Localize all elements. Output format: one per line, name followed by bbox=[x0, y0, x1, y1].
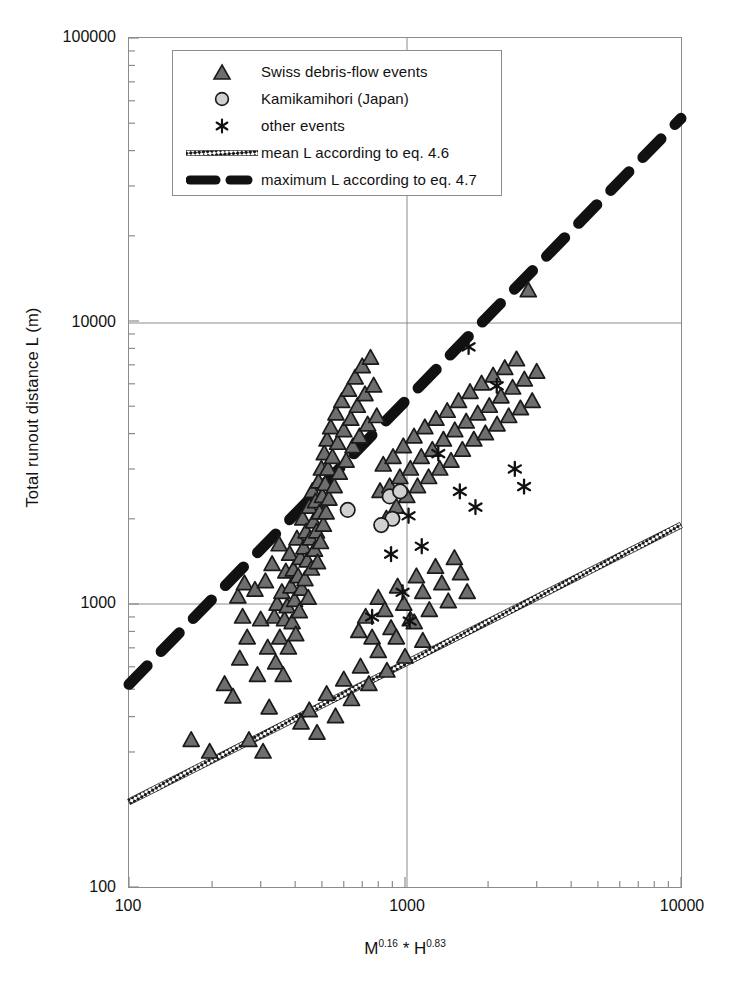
legend-item-mean-line: mean L according to eq. 4.6 bbox=[173, 139, 501, 166]
legend-label-mean-line: mean L according to eq. 4.6 bbox=[261, 144, 449, 161]
legend-item-max-line: maximum L according to eq. 4.7 bbox=[173, 166, 501, 193]
x-tick-label-10000: 10000 bbox=[645, 897, 719, 915]
chart-figure: Total runout distance L (m) 100000 10000… bbox=[0, 0, 741, 987]
legend-label-swiss: Swiss debris-flow events bbox=[261, 63, 428, 80]
x-axis-label-base-m: M bbox=[364, 939, 378, 958]
x-axis-label-base-h: H bbox=[414, 939, 426, 958]
trend-lines bbox=[128, 118, 683, 804]
y-tick-label-100000: 100000 bbox=[8, 28, 116, 46]
x-axis-label-operator: * bbox=[398, 939, 414, 958]
circle-marker-icon bbox=[183, 90, 261, 108]
legend-item-swiss: Swiss debris-flow events bbox=[173, 58, 501, 85]
data-points bbox=[183, 282, 545, 758]
dotted-line-icon bbox=[183, 147, 261, 159]
y-tick-label-100: 100 bbox=[8, 878, 116, 896]
asterisk-marker-icon bbox=[183, 117, 261, 135]
legend-label-other: other events bbox=[261, 117, 345, 134]
legend-item-other: other events bbox=[173, 112, 501, 139]
y-tick-label-10000: 10000 bbox=[8, 313, 116, 331]
y-tick-label-1000: 1000 bbox=[8, 594, 116, 612]
legend-label-kamikamihori: Kamikamihori (Japan) bbox=[261, 90, 409, 107]
x-axis-label-exp-h: 0.83 bbox=[426, 938, 445, 949]
triangle-marker-icon bbox=[183, 63, 261, 81]
x-axis-label: M0.16 * H0.83 bbox=[128, 938, 682, 959]
dashed-line-icon bbox=[183, 173, 261, 187]
x-tick-label-1000: 1000 bbox=[375, 897, 439, 915]
x-axis-label-exp-m: 0.16 bbox=[378, 938, 397, 949]
x-tick-label-100: 100 bbox=[96, 897, 160, 915]
legend-item-kamikamihori: Kamikamihori (Japan) bbox=[173, 85, 501, 112]
legend-label-max-line: maximum L according to eq. 4.7 bbox=[261, 171, 477, 188]
legend: Swiss debris-flow events Kamikamihori (J… bbox=[172, 50, 502, 196]
